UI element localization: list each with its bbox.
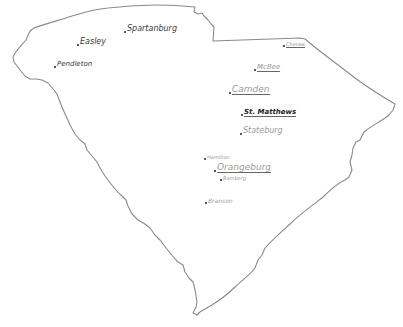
city-mcbee: McBee: [254, 64, 280, 71]
city-dot-icon: [254, 69, 256, 71]
state-map: [0, 0, 403, 327]
city-label: Easley: [80, 37, 106, 46]
city-hamilton: Hamilton: [204, 155, 230, 160]
city-label: Branson: [208, 197, 233, 204]
city-spartanburg: Spartanburg: [124, 25, 177, 33]
city-label: Pendleton: [57, 60, 92, 68]
city-label: Spartanburg: [127, 24, 177, 33]
city-label: Orangeburg: [217, 162, 271, 173]
city-label: Ramberg: [223, 175, 246, 181]
city-dot-icon: [241, 114, 243, 116]
city-dot-icon: [283, 45, 285, 47]
city-pendleton: Pendleton: [54, 61, 92, 68]
city-stateburg: Stateburg: [240, 127, 283, 135]
city-easley: Easley: [77, 38, 106, 46]
city-branson: Branson: [205, 198, 233, 204]
city-dot-icon: [54, 66, 56, 68]
city-dot-icon: [204, 158, 206, 160]
state-outline: [13, 5, 395, 315]
city-label: St. Matthews: [244, 108, 296, 117]
city-dot-icon: [124, 31, 126, 33]
city-label: McBee: [257, 63, 280, 72]
city-dot-icon: [229, 92, 231, 94]
city-label: Hamilton: [207, 154, 230, 160]
city-dot-icon: [205, 202, 207, 204]
city-dot-icon: [220, 179, 222, 181]
city-dot-icon: [214, 170, 216, 172]
city-st-matthews: St. Matthews: [241, 109, 296, 116]
city-cheraw: Cheraw: [283, 42, 305, 47]
city-label: Camden: [232, 84, 270, 95]
city-label: Stateburg: [243, 126, 283, 135]
city-label: Cheraw: [286, 41, 305, 48]
city-dot-icon: [77, 44, 79, 46]
city-orangeburg: Orangeburg: [214, 163, 271, 172]
city-camden: Camden: [229, 85, 270, 94]
city-dot-icon: [240, 133, 242, 135]
city-ramberg: Ramberg: [220, 176, 246, 181]
